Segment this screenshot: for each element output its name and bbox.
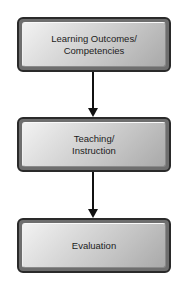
- node-learning-outcomes: Learning Outcomes/ Competencies: [17, 17, 171, 72]
- node-evaluation-label: Evaluation: [72, 240, 116, 252]
- arrow-down-icon: [88, 209, 98, 218]
- node-learning-outcomes-face: Learning Outcomes/ Competencies: [22, 22, 166, 67]
- arrow-outcomes-to-teaching-line: [92, 72, 94, 109]
- node-teaching-instruction-label: Teaching/ Instruction: [72, 133, 116, 157]
- arrow-teaching-to-evaluation-line: [92, 172, 94, 210]
- node-learning-outcomes-label: Learning Outcomes/ Competencies: [51, 33, 137, 57]
- node-evaluation-face: Evaluation: [22, 223, 166, 268]
- node-evaluation: Evaluation: [17, 218, 171, 273]
- node-teaching-instruction: Teaching/ Instruction: [17, 117, 171, 172]
- arrow-down-icon: [88, 108, 98, 117]
- node-teaching-instruction-face: Teaching/ Instruction: [22, 122, 166, 167]
